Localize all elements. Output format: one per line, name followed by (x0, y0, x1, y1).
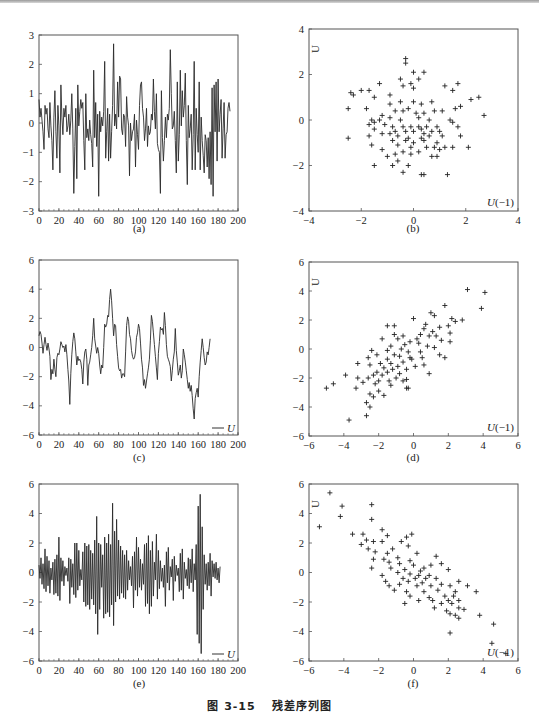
x-tick-label: 60 (93, 439, 104, 450)
plus-marker-icon (429, 154, 434, 159)
x-tick-label: 2 (446, 440, 451, 451)
plus-marker-icon (402, 342, 407, 347)
plus-marker-icon (440, 133, 445, 138)
plus-marker-icon (450, 120, 455, 125)
plus-marker-icon (385, 370, 390, 375)
x-tick-label: 6 (515, 440, 520, 451)
plus-marker-icon (482, 113, 487, 118)
plus-marker-icon (369, 143, 374, 148)
plus-marker-icon (367, 88, 372, 93)
plus-marker-icon (401, 360, 406, 365)
line-chart-c: 020406080100120140160180200−6−4−20246U (0, 250, 270, 450)
plus-marker-icon (371, 373, 376, 378)
plus-marker-icon (406, 349, 411, 354)
y-tick-label: −6 (23, 656, 34, 667)
plus-marker-icon (395, 143, 400, 148)
y-tick-label: −6 (293, 656, 304, 667)
plus-marker-icon (448, 339, 453, 344)
plus-marker-icon (360, 380, 365, 385)
plus-marker-icon (380, 336, 385, 341)
y-tick-label: 6 (299, 479, 304, 490)
x-tick-label: −4 (338, 665, 350, 676)
plus-marker-icon (404, 535, 409, 540)
plus-marker-icon (427, 371, 432, 376)
plus-marker-icon (462, 607, 467, 612)
plus-marker-icon (409, 532, 414, 537)
plus-marker-icon (372, 120, 377, 125)
plus-marker-icon (364, 413, 369, 418)
scatter-chart-d: −6−4−20246−6−4−20246UU(−1) (270, 250, 539, 450)
x-tick-label: −4 (303, 215, 315, 226)
y-axis-label: U (309, 45, 321, 53)
plus-marker-icon (421, 172, 426, 177)
plus-marker-icon (385, 551, 390, 556)
plus-marker-icon (395, 133, 400, 138)
plus-marker-icon (456, 616, 461, 621)
plus-marker-icon (369, 502, 374, 507)
plus-marker-icon (444, 608, 449, 613)
y-tick-label: −6 (293, 431, 304, 442)
plus-marker-icon (437, 129, 442, 134)
plus-marker-icon (395, 158, 400, 163)
panel-label-d: (d) (393, 451, 433, 463)
plus-marker-icon (392, 588, 397, 593)
plus-marker-icon (455, 81, 460, 86)
x-axis-label: U(−1) (487, 646, 514, 659)
plus-marker-icon (465, 287, 470, 292)
plus-marker-icon (428, 583, 433, 588)
plus-marker-icon (350, 532, 355, 537)
plus-marker-icon (364, 538, 369, 543)
plus-marker-icon (366, 355, 371, 360)
y-tick-label: −4 (23, 400, 35, 411)
plus-marker-icon (392, 323, 397, 328)
plus-marker-icon (414, 583, 419, 588)
x-tick-label: 6 (515, 665, 520, 676)
plus-marker-icon (411, 140, 416, 145)
plus-marker-icon (385, 323, 390, 328)
plus-marker-icon (421, 326, 426, 331)
plus-marker-icon (331, 381, 336, 386)
plus-marker-icon (411, 129, 416, 134)
plus-marker-icon (347, 418, 352, 423)
x-tick-label: 20 (54, 439, 65, 450)
plus-marker-icon (408, 81, 413, 86)
y-tick-label: −4 (293, 402, 305, 413)
plus-marker-icon (401, 333, 406, 338)
plus-marker-icon (393, 152, 398, 157)
plus-marker-icon (380, 539, 385, 544)
plus-marker-icon (387, 131, 392, 136)
plus-marker-icon (371, 539, 376, 544)
plus-marker-icon (380, 113, 385, 118)
y-tick-label: −1 (23, 147, 34, 158)
y-tick-label: 6 (299, 257, 304, 268)
plus-marker-icon (465, 583, 470, 588)
plus-marker-icon (416, 598, 421, 603)
plus-marker-icon (380, 373, 385, 378)
x-tick-label: 160 (190, 439, 206, 450)
x-tick-label: 180 (210, 215, 226, 226)
plus-marker-icon (429, 129, 434, 134)
plus-marker-icon (411, 316, 416, 321)
legend-label: U (227, 422, 236, 434)
plot-frame (39, 260, 238, 435)
axes: 020406080100120140160180200−6−4−20246 (23, 255, 246, 451)
plus-marker-icon (397, 354, 402, 359)
x-tick-label: −4 (338, 440, 350, 451)
x-tick-label: 160 (190, 665, 206, 676)
y-tick-label: −4 (293, 206, 305, 217)
plus-marker-icon (421, 131, 426, 136)
y-tick-label: 0 (299, 567, 304, 578)
plot-frame (309, 484, 518, 661)
panel-label-b: (b) (393, 222, 433, 234)
y-tick-label: 4 (299, 508, 305, 519)
chart-panel-a: 020406080100120140160180200−3−2−10123 (0, 20, 270, 220)
plus-marker-icon (414, 551, 419, 556)
plus-marker-icon (416, 115, 421, 120)
plus-marker-icon (418, 332, 423, 337)
x-tick-label: 200 (230, 439, 246, 450)
plus-marker-icon (411, 86, 416, 91)
y-tick-label: 0 (29, 118, 34, 129)
x-tick-label: 80 (113, 439, 124, 450)
x-tick-label: 4 (515, 215, 521, 226)
plus-marker-icon (367, 122, 372, 127)
